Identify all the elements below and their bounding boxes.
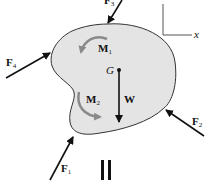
force-f3-subscript: 3 (111, 0, 115, 8)
svg-text:F4: F4 (6, 56, 17, 70)
force-f1-subscript: 1 (68, 168, 72, 176)
force-f3: F3 (104, 0, 122, 23)
moment-m1-subscript: 1 (108, 48, 112, 56)
force-f4: F4 (6, 53, 50, 78)
weight-label: W (124, 93, 135, 105)
svg-text:F1: F1 (61, 162, 72, 176)
equality-symbol (101, 160, 111, 180)
moment-m2-label: M (86, 93, 97, 105)
x-axis-label: x (193, 28, 199, 40)
svg-text:F2: F2 (192, 115, 203, 129)
svg-text:F3: F3 (104, 0, 115, 8)
force-f1: F1 (50, 137, 73, 180)
center-of-gravity-label: G (106, 64, 114, 76)
force-f4-subscript: 4 (13, 62, 17, 70)
rigid-body (51, 24, 176, 134)
moment-m1-label: M (98, 42, 109, 54)
free-body-diagram: x M1 G W M2 F3 F4 (0, 0, 209, 184)
coordinate-axes: x (163, 4, 199, 40)
force-f2: F2 (166, 110, 204, 136)
force-f2-subscript: 2 (199, 121, 203, 129)
moment-m2-subscript: 2 (96, 99, 100, 107)
